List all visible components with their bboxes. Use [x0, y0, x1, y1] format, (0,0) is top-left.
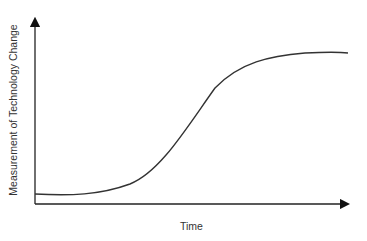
y-axis-label: Measurement of Technology Change: [7, 24, 19, 195]
x-axis-label: Time: [180, 220, 203, 232]
s-curve-line: [35, 52, 348, 195]
chart-canvas: [0, 0, 367, 241]
